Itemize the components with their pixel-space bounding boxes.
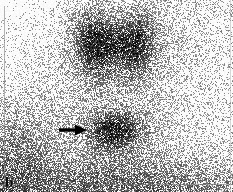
scintigraphy-figure: b [0,0,233,192]
scintigram-image [0,0,233,192]
panel-label: b [5,175,13,190]
